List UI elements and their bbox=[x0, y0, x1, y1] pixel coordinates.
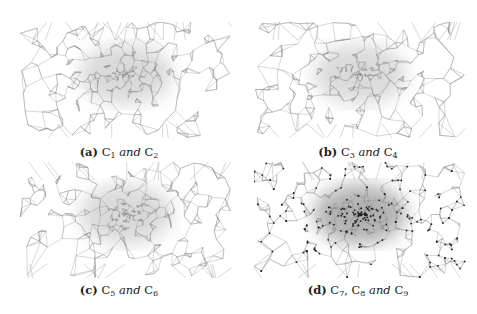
caption-b: (b) C3 and C4 bbox=[239, 145, 477, 160]
set-index: 6 bbox=[153, 289, 158, 298]
set-index: 3 bbox=[350, 151, 355, 160]
voronoi-map-panel-b bbox=[254, 22, 466, 138]
voronoi-map-panel-a bbox=[20, 22, 232, 138]
voronoi-mesh bbox=[20, 162, 232, 278]
caption-conjunction: and bbox=[119, 145, 141, 159]
set-name: C bbox=[330, 283, 339, 297]
set-index: 9 bbox=[403, 289, 408, 298]
caption-a: (a) C1 and C2 bbox=[0, 145, 238, 160]
caption-conjunction: and bbox=[369, 283, 391, 297]
set-index: 4 bbox=[393, 151, 398, 160]
caption-separator: , bbox=[344, 283, 348, 297]
caption-conjunction: and bbox=[119, 283, 141, 297]
set-name: C bbox=[101, 283, 110, 297]
set-index: 5 bbox=[110, 289, 115, 298]
caption-conjunction: and bbox=[358, 145, 380, 159]
caption-d: (d) C7, C8 and C9 bbox=[239, 283, 477, 298]
caption-label: (b) bbox=[318, 145, 337, 159]
voronoi-mesh bbox=[20, 22, 232, 138]
caption-label: (c) bbox=[80, 283, 98, 297]
set-name: C bbox=[384, 145, 393, 159]
set-name: C bbox=[144, 283, 153, 297]
voronoi-mesh bbox=[254, 162, 466, 278]
caption-label: (a) bbox=[80, 145, 98, 159]
set-index: 1 bbox=[110, 151, 115, 160]
set-name: C bbox=[341, 145, 350, 159]
set-name: C bbox=[394, 283, 403, 297]
set-index: 8 bbox=[360, 289, 365, 298]
voronoi-map-panel-d bbox=[254, 162, 466, 278]
voronoi-mesh bbox=[254, 22, 466, 138]
caption-c: (c) C5 and C6 bbox=[0, 283, 238, 298]
caption-label: (d) bbox=[308, 283, 327, 297]
voronoi-map-panel-c bbox=[20, 162, 232, 278]
set-name: C bbox=[144, 145, 153, 159]
set-index: 2 bbox=[153, 151, 158, 160]
